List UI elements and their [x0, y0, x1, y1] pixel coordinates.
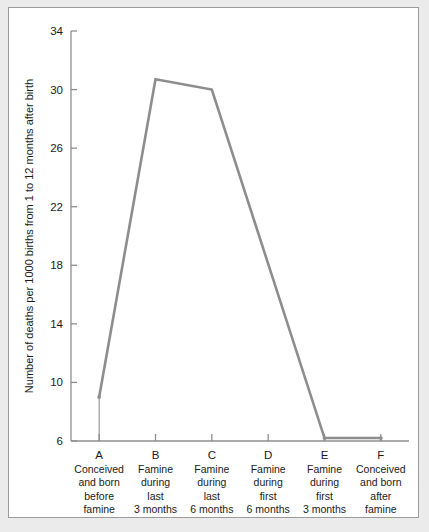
x-category-desc-c: 6 months: [190, 503, 233, 515]
y-tick-label: 22: [50, 201, 63, 213]
x-category-desc-b: 3 months: [134, 503, 177, 515]
x-category-desc-a: Conceived: [74, 463, 124, 475]
y-tick-label: 34: [50, 25, 63, 37]
data-line-path: [99, 79, 381, 438]
x-category-labels: AConceivedand bornbeforefamineBFaminedur…: [74, 449, 405, 515]
x-category-desc-c: during: [197, 476, 226, 488]
y-tick-label: 26: [50, 142, 63, 154]
y-axis-label: Number of deaths per 1000 births from 1 …: [23, 79, 35, 393]
x-category-letter-d: D: [264, 449, 272, 461]
y-tick-label: 10: [50, 376, 63, 388]
x-category-desc-e: during: [310, 476, 339, 488]
x-category-letter-b: B: [152, 449, 160, 461]
x-category-desc-e: first: [316, 490, 333, 502]
x-category-desc-e: 3 months: [303, 503, 346, 515]
y-tick-label: 14: [50, 318, 63, 330]
x-category-letter-e: E: [321, 449, 329, 461]
line-chart: 610141822263034 Number of deaths per 100…: [9, 8, 420, 519]
x-category-desc-d: 6 months: [247, 503, 290, 515]
data-series: [97, 79, 382, 441]
x-category-desc-d: during: [254, 476, 283, 488]
x-category-desc-b: Famine: [138, 463, 173, 475]
y-tick-group: 610141822263034: [50, 25, 77, 447]
x-category-desc-c: Famine: [194, 463, 229, 475]
x-category-desc-b: during: [141, 476, 170, 488]
x-category-desc-c: last: [204, 490, 220, 502]
x-category-letter-c: C: [208, 449, 216, 461]
y-tick-label: 30: [50, 84, 63, 96]
x-category-letter-a: A: [95, 449, 103, 461]
x-category-desc-f: famine: [365, 503, 397, 515]
x-category-desc-f: and born: [360, 476, 402, 488]
y-tick-label: 18: [50, 259, 63, 271]
y-axis-label-text: Number of deaths per 1000 births from 1 …: [23, 79, 35, 393]
chart-frame: 610141822263034 Number of deaths per 100…: [8, 7, 419, 518]
x-category-desc-d: Famine: [251, 463, 286, 475]
x-category-desc-d: first: [260, 490, 277, 502]
x-category-desc-e: Famine: [307, 463, 342, 475]
y-tick-label: 6: [57, 435, 63, 447]
x-category-desc-a: and born: [78, 476, 120, 488]
x-category-desc-f: after: [370, 490, 392, 502]
x-category-desc-f: Conceived: [356, 463, 406, 475]
x-category-desc-b: last: [147, 490, 163, 502]
x-category-letter-f: F: [377, 449, 384, 461]
chart-page: 610141822263034 Number of deaths per 100…: [0, 0, 429, 532]
x-category-desc-a: famine: [83, 503, 115, 515]
x-category-desc-a: before: [84, 490, 114, 502]
